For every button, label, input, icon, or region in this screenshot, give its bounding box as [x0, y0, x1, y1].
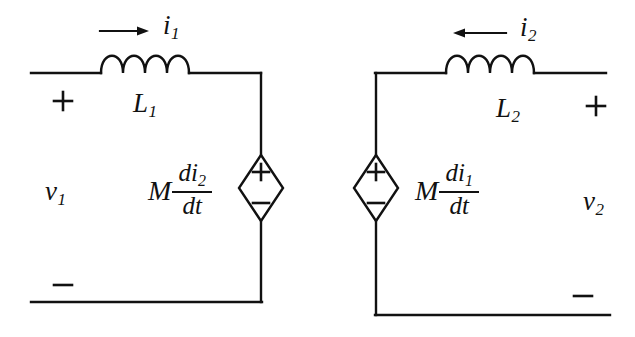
- source-expression-right-numerator: di1: [444, 160, 475, 190]
- current-arrow-i2: [453, 29, 506, 38]
- source-expression-left-fraction: di2 dt: [172, 160, 212, 219]
- port-polarity-marks: [54, 92, 605, 296]
- inductor-l2-coil: [446, 56, 534, 73]
- current-arrow-i1: [100, 27, 149, 36]
- voltage-label-v2-symbol: v: [583, 186, 595, 216]
- voltage-label-v1-symbol: v: [45, 176, 57, 206]
- voltage-label-v1-subscript: 1: [57, 190, 66, 209]
- current-label-i2-symbol: i: [520, 12, 528, 42]
- source-expression-left: M di2 dt: [148, 160, 212, 219]
- current-label-i2-subscript: 2: [528, 26, 537, 45]
- voltage-label-v2-subscript: 2: [595, 200, 604, 219]
- source-expression-right: M di1 dt: [415, 160, 479, 219]
- source-expression-right-numerator-subscript: 1: [465, 172, 473, 189]
- source-expression-left-numerator-subscript: 2: [198, 172, 206, 189]
- source-polarity-marks: [253, 164, 384, 203]
- voltage-label-v1: v1: [45, 178, 66, 208]
- inductor-label-l1-subscript: 1: [148, 102, 157, 121]
- inductor-label-l1: L1: [133, 90, 157, 120]
- current-label-i1-symbol: i: [163, 10, 171, 40]
- current-label-i1-subscript: 1: [171, 24, 180, 43]
- source-expression-right-coefficient: M: [415, 173, 439, 207]
- current-label-i2: i2: [520, 14, 537, 44]
- current-label-i1: i1: [163, 12, 180, 42]
- source-expression-right-fraction: di1 dt: [439, 160, 479, 219]
- voltage-label-v2: v2: [583, 188, 604, 218]
- source-expression-left-denominator: dt: [181, 193, 204, 219]
- source-expression-left-numerator: di2: [177, 160, 208, 190]
- source-expression-right-denominator: dt: [448, 193, 471, 219]
- inductor-label-l2: L2: [496, 95, 520, 125]
- inductor-label-l2-symbol: L: [496, 93, 511, 123]
- inductor-l1-coil: [101, 56, 189, 73]
- inductor-label-l2-subscript: 2: [511, 107, 520, 126]
- circuit-schematic-svg: [0, 0, 635, 337]
- source-expression-right-numerator-text: di: [446, 159, 465, 186]
- circuit-diagram-figure: i1 L1 v1 M di2 dt i2 L2 v2 M di1: [0, 0, 635, 337]
- inductor-label-l1-symbol: L: [133, 88, 148, 118]
- source-expression-left-numerator-text: di: [179, 159, 198, 186]
- source-expression-left-coefficient: M: [148, 173, 172, 207]
